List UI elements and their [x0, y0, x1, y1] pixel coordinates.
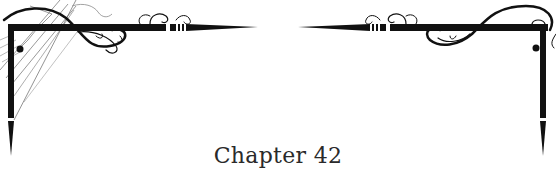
- chapter-title: Chapter 42: [0, 143, 556, 168]
- left-ornament-dot: [17, 46, 24, 53]
- left-corner-ornament: [0, 0, 258, 156]
- quill-sketch-icon: [0, 0, 112, 120]
- right-corner-ornament: [298, 6, 556, 156]
- left-horizontal-bar: [8, 24, 166, 31]
- right-ornament-dot: [533, 45, 540, 52]
- right-vertical-bar: [540, 24, 546, 118]
- right-horizontal-bar: [390, 24, 548, 31]
- left-vertical-bar: [8, 24, 14, 118]
